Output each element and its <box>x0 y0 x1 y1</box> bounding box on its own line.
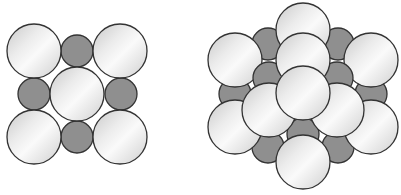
large-atom <box>50 67 104 121</box>
small-atom <box>61 35 93 67</box>
large-atom <box>93 24 147 78</box>
small-atom <box>61 121 93 153</box>
large-atom <box>7 24 61 78</box>
large-atom <box>276 135 330 189</box>
small-atom <box>105 78 137 110</box>
large-atom <box>276 66 330 120</box>
large-atom <box>7 110 61 164</box>
hexagonal-packing-panel <box>208 3 398 189</box>
crystal-packing-diagram <box>0 0 401 195</box>
square-packing-panel <box>7 24 147 164</box>
small-atom <box>18 78 50 110</box>
large-atom <box>93 110 147 164</box>
